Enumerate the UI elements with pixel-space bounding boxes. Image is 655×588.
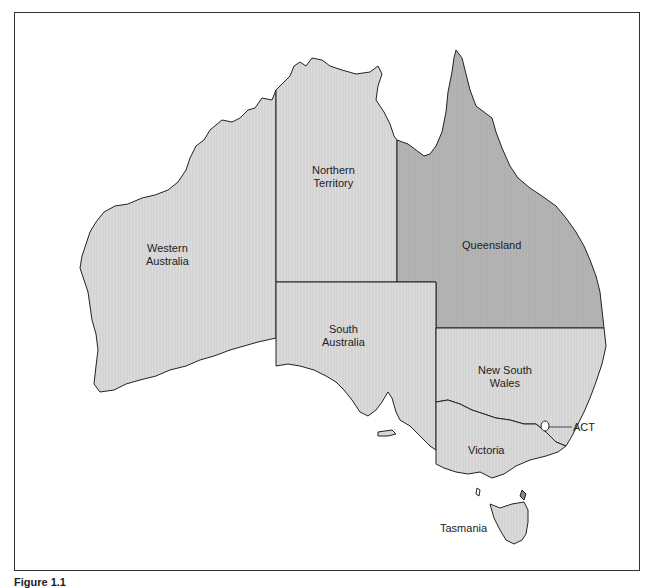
label-line: Queensland <box>462 239 521 252</box>
label-tasmania: Tasmania <box>440 522 487 535</box>
label-line: Western <box>146 242 189 255</box>
label-new-south-wales: New South Wales <box>478 364 532 390</box>
label-line: Territory <box>312 177 355 190</box>
region-western-australia <box>80 90 276 392</box>
label-line: Victoria <box>468 444 504 457</box>
figure-caption: Figure 1.1 <box>14 576 66 588</box>
label-line: ACT <box>573 421 595 434</box>
label-victoria: Victoria <box>468 444 504 457</box>
kangaroo-island <box>378 430 396 436</box>
flinders-island <box>520 490 526 500</box>
king-island <box>476 488 480 496</box>
region-south-australia <box>276 282 436 450</box>
label-south-australia: South Australia <box>322 323 365 349</box>
label-line: Northern <box>312 164 355 177</box>
label-line: South <box>322 323 365 336</box>
label-northern-territory: Northern Territory <box>312 164 355 190</box>
label-line: New South <box>478 364 532 377</box>
label-western-australia: Western Australia <box>146 242 189 268</box>
region-act <box>541 421 549 431</box>
region-tasmania <box>490 502 528 544</box>
label-act: ACT <box>573 421 595 434</box>
label-line: Australia <box>146 255 189 268</box>
label-line: Tasmania <box>440 522 487 535</box>
label-line: Australia <box>322 336 365 349</box>
label-line: Wales <box>478 377 532 390</box>
label-queensland: Queensland <box>462 239 521 252</box>
